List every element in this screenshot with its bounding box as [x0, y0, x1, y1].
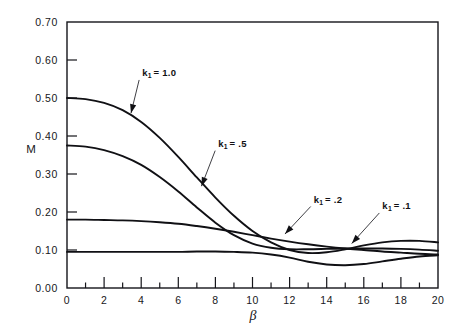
x-tick-label: 0 — [64, 294, 70, 306]
y-tick-label: 0.20 — [35, 206, 58, 218]
y-tick-label: 0.70 — [35, 16, 58, 28]
x-tick-label: 2 — [101, 294, 107, 306]
y-tick-label: 0.10 — [35, 244, 58, 256]
y-tick-label: 0.30 — [35, 168, 58, 180]
x-axis-title: β — [249, 308, 257, 323]
x-tick-label: 20 — [432, 294, 445, 306]
y-tick-label: 0.00 — [35, 282, 58, 294]
x-tick-label: 10 — [246, 294, 259, 306]
x-tick-label: 14 — [320, 294, 333, 306]
chart-canvas: 0.000.100.200.300.400.500.600.70 0246810… — [0, 0, 468, 331]
y-tick-label: 0.40 — [35, 130, 58, 142]
x-tick-label: 8 — [212, 294, 218, 306]
series-label: k1= 1.0 — [142, 67, 176, 79]
x-tick-label: 6 — [175, 294, 181, 306]
chart-figure: 0.000.100.200.300.400.500.600.70 0246810… — [0, 0, 468, 331]
y-axis-title: M — [26, 143, 36, 155]
x-tick-label: 16 — [357, 294, 370, 306]
series-label: k1= .1 — [382, 200, 411, 212]
chart-background — [0, 0, 468, 331]
series-label: k1= .2 — [314, 194, 343, 206]
y-tick-label: 0.60 — [35, 54, 58, 66]
series-label: k1= .5 — [218, 138, 247, 150]
x-tick-label: 18 — [395, 294, 408, 306]
y-tick-label: 0.50 — [35, 92, 58, 104]
x-tick-label: 12 — [283, 294, 296, 306]
x-tick-label: 4 — [138, 294, 144, 306]
